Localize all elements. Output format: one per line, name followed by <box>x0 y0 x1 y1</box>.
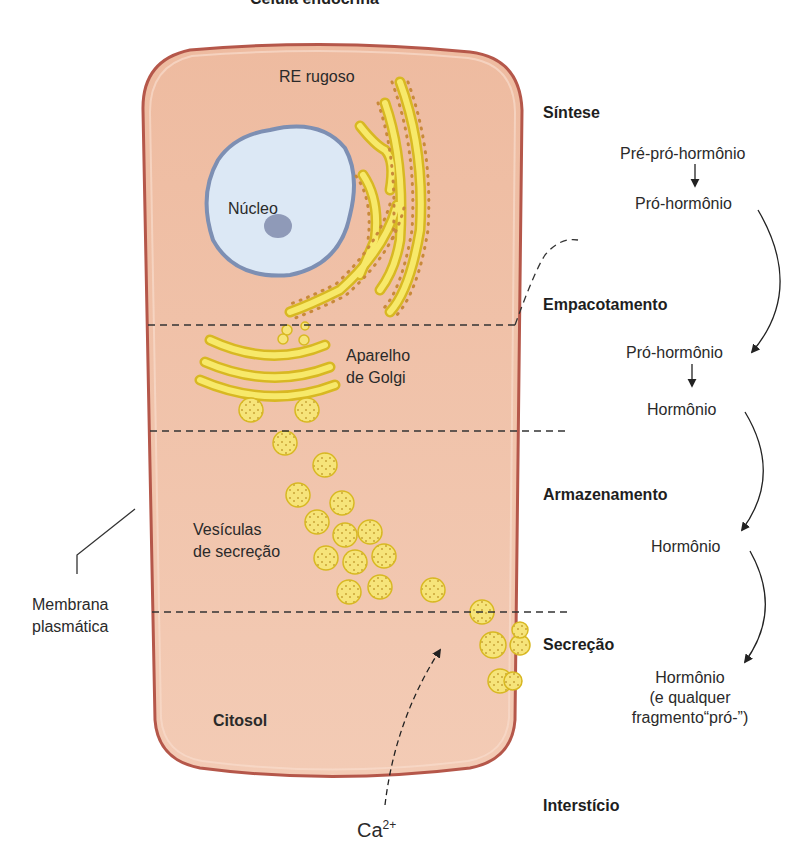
vesicles-label-line1: Vesículas <box>193 519 280 541</box>
rer-label: RE rugoso <box>279 68 355 86</box>
pathway-preprohormone: Pré-pró-hormônio <box>620 145 745 163</box>
secretion-line3: fragmento“pró-”) <box>615 708 765 728</box>
stage-storage: Armazenamento <box>543 486 667 504</box>
membrane-label: Membrana plasmática <box>32 594 108 638</box>
stage-synthesis: Síntese <box>543 104 600 122</box>
stage-secretion: Secreção <box>543 636 614 654</box>
pathway-prohormone-packaging: Pró-hormônio <box>626 344 723 362</box>
calcium-base: Ca <box>357 819 383 841</box>
pathway-hormone-secretion: Hormônio (e qualquer fragmento“pró-”) <box>615 668 765 728</box>
cytosol-label: Citosol <box>213 712 267 730</box>
vesicles-label-line2: de secreção <box>193 541 280 563</box>
stage-packaging: Empacotamento <box>543 296 667 314</box>
pathway-hormone-storage: Hormônio <box>651 538 720 556</box>
nucleus-label: Núcleo <box>228 200 278 218</box>
membrane-pointer <box>77 509 135 574</box>
stage-interstitium: Interstício <box>543 797 619 815</box>
vesicles-label: Vesículas de secreção <box>193 519 280 563</box>
pathway-hormone-packaging: Hormônio <box>647 401 716 419</box>
golgi-label-line2: de Golgi <box>346 367 410 389</box>
golgi-label: Aparelho de Golgi <box>346 345 410 389</box>
pathway-prohormone-synthesis: Pró-hormônio <box>635 195 732 213</box>
membrane-label-line1: Membrana <box>32 594 108 616</box>
secretion-line1: Hormônio <box>615 668 765 688</box>
golgi-label-line1: Aparelho <box>346 345 410 367</box>
membrane-label-line2: plasmática <box>32 616 108 638</box>
calcium-label: Ca2+ <box>357 818 396 842</box>
cell-diagram <box>0 0 800 867</box>
secretion-line2: (e qualquer <box>615 688 765 708</box>
calcium-charge: 2+ <box>383 818 397 832</box>
